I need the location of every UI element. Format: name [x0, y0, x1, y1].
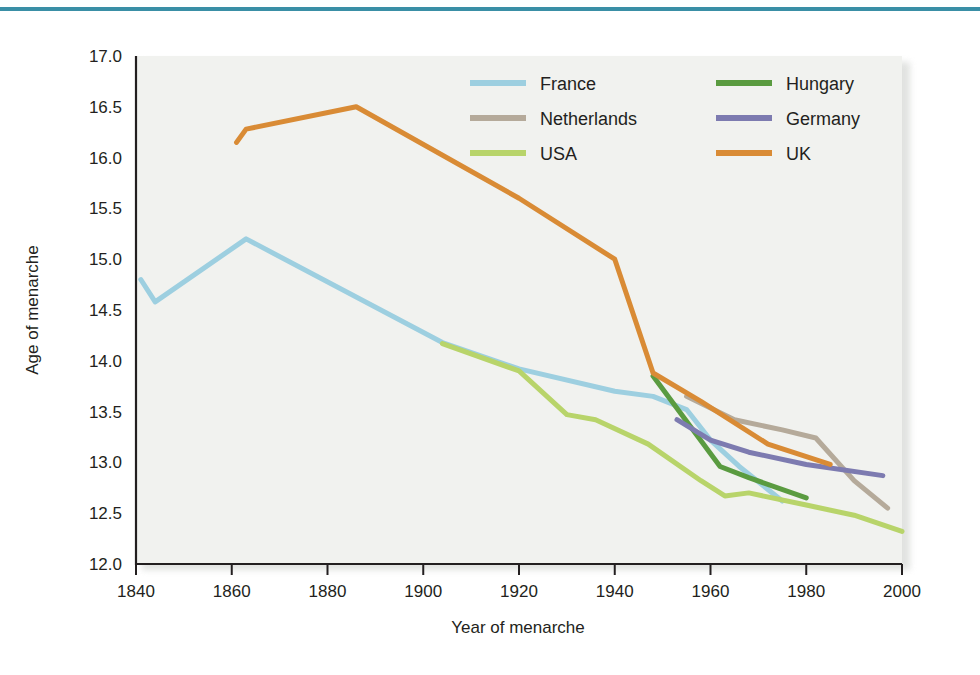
legend-label: UK [786, 144, 811, 164]
y-tick-label: 12.5 [89, 504, 122, 523]
legend-item-germany[interactable]: Germany [716, 109, 860, 129]
series-line-uk [237, 107, 831, 465]
legend-label: France [540, 74, 596, 94]
x-tick-label: 2000 [883, 582, 921, 601]
legend-item-netherlands[interactable]: Netherlands [470, 109, 637, 129]
series-line-france [141, 239, 783, 501]
x-tick-label: 1840 [117, 582, 155, 601]
legend-item-uk[interactable]: UK [716, 144, 811, 164]
tick-labels-layer: 18401860188019001920194019601980200012.0… [89, 47, 921, 601]
legend-item-usa[interactable]: USA [470, 144, 577, 164]
y-axis-title: Age of menarche [23, 245, 42, 374]
y-tick-label: 14.0 [89, 352, 122, 371]
x-tick-label: 1860 [213, 582, 251, 601]
axes-layer [136, 56, 902, 575]
legend-item-france[interactable]: France [470, 74, 596, 94]
x-tick-label: 1900 [404, 582, 442, 601]
x-tick-label: 1920 [500, 582, 538, 601]
series-line-usa [442, 344, 902, 532]
legend-label: USA [540, 144, 577, 164]
legend-layer: FranceNetherlandsUSAHungaryGermanyUK [470, 74, 860, 164]
legend-item-hungary[interactable]: Hungary [716, 74, 854, 94]
figure-canvas: 18401860188019001920194019601980200012.0… [0, 0, 980, 675]
legend-label: Netherlands [540, 109, 637, 129]
line-chart: 18401860188019001920194019601980200012.0… [0, 0, 980, 675]
x-tick-label: 1880 [309, 582, 347, 601]
y-tick-label: 15.5 [89, 199, 122, 218]
legend-label: Germany [786, 109, 860, 129]
x-tick-label: 1980 [787, 582, 825, 601]
y-tick-label: 16.5 [89, 98, 122, 117]
y-tick-label: 15.0 [89, 250, 122, 269]
y-tick-label: 12.0 [89, 555, 122, 574]
y-tick-label: 16.0 [89, 149, 122, 168]
series-layer [141, 107, 902, 532]
y-tick-label: 17.0 [89, 47, 122, 66]
y-tick-label: 14.5 [89, 301, 122, 320]
series-line-hungary [653, 376, 806, 498]
y-tick-label: 13.0 [89, 453, 122, 472]
x-tick-label: 1960 [692, 582, 730, 601]
x-axis-title: Year of menarche [451, 618, 585, 637]
x-tick-label: 1940 [596, 582, 634, 601]
legend-label: Hungary [786, 74, 854, 94]
axis-lines [136, 56, 902, 564]
y-tick-label: 13.5 [89, 403, 122, 422]
